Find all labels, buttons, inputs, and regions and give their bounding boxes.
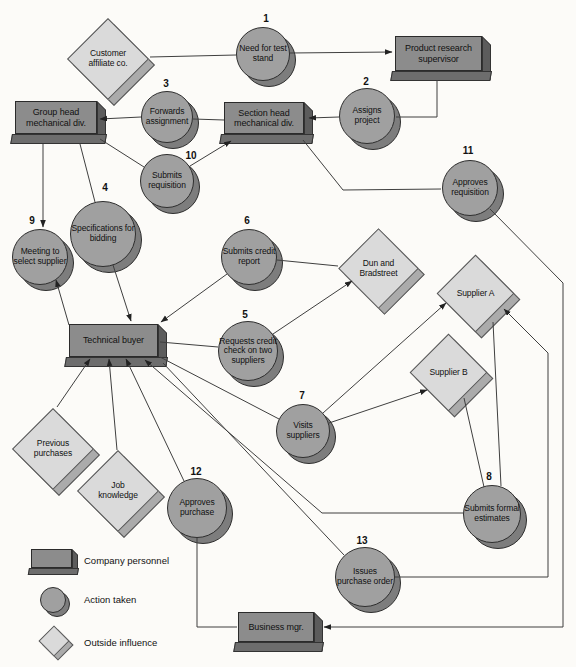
legend-outside-influence-swatch — [43, 630, 65, 652]
edge-group-head-to-4 — [80, 144, 95, 202]
action-label: Approves requisition — [443, 178, 497, 197]
action-node-11: Approves requisition — [442, 160, 498, 216]
edge-dun-and-bradstreet-to-6 — [277, 260, 338, 266]
edge-3-to-group-head — [100, 117, 141, 119]
edge-6-to-technical-buyer — [161, 274, 227, 322]
personnel-label: Group head mechanical div. — [16, 107, 96, 127]
influence-supplier-b: Supplier B — [421, 345, 476, 400]
edge-product-research-supervisor-to-2 — [396, 80, 437, 117]
personnel-label: Business mgr. — [248, 622, 303, 632]
action-label: Assigns project — [340, 106, 394, 125]
box-bottom-face — [219, 134, 314, 144]
action-node-10: Submits requisition — [140, 154, 194, 208]
legend-label-outside-influence: Outside influence — [84, 637, 204, 648]
edge-job-knowledge-to-technical-buyer — [109, 359, 117, 450]
personnel-label: Section head mechanical div. — [225, 108, 303, 128]
action-number: 9 — [23, 215, 41, 226]
box-bottom-face — [10, 134, 107, 144]
action-node-3: Forwards assignment — [141, 91, 193, 143]
action-number: 6 — [238, 215, 256, 226]
flow-diagram: Customer affiliate co. Dun and Bradstree… — [0, 0, 576, 667]
influence-label: Supplier B — [427, 368, 471, 378]
action-number: 8 — [480, 471, 498, 482]
edge-business-mgr-to-12 — [197, 538, 237, 627]
influence-label: Dun and Bradstreet — [350, 259, 408, 278]
influence-label: Job knowledge — [92, 481, 144, 500]
influence-label: Previous purchases — [28, 439, 78, 458]
action-label: Visits suppliers — [277, 421, 329, 440]
action-label: Forwards assignment — [142, 107, 192, 126]
action-number: 7 — [293, 390, 311, 401]
action-label: Submits credit report — [222, 247, 276, 266]
action-number: 2 — [357, 76, 375, 87]
personnel-label: Product research supervisor — [396, 43, 481, 63]
action-number: 3 — [157, 78, 175, 89]
action-label: Submits formal estimates — [464, 504, 520, 523]
box-bottom-face — [390, 71, 492, 81]
legend-action-taken-swatch — [40, 587, 66, 613]
action-node-7: Visits suppliers — [276, 404, 330, 458]
action-node-5: Requests credit check on two suppliers — [218, 321, 278, 381]
box-bottom-face — [28, 568, 79, 575]
action-label: Requests credit check on two suppliers — [219, 337, 277, 366]
legend-label-action-taken: Action taken — [84, 594, 204, 605]
personnel-label: Technical buyer — [83, 335, 144, 345]
legend-company-personnel-swatch — [31, 549, 72, 568]
personnel-business-mgr: Business mgr. — [238, 612, 314, 642]
action-label: Need for test stand — [237, 44, 289, 63]
personnel-technical-buyer: Technical buyer — [69, 324, 158, 357]
influence-dun-and-bradstreet: Dun and Bradstreet — [350, 240, 407, 297]
box-bottom-face — [64, 357, 168, 367]
edge-2-to-section-head — [309, 117, 339, 118]
action-node-8: Submits formal estimates — [463, 485, 521, 543]
action-node-4: Specifications for bidding — [70, 201, 136, 267]
edge-4-to-technical-buyer — [113, 265, 131, 321]
action-node-1: Need for test stand — [236, 27, 290, 81]
action-number: 10 — [182, 150, 200, 161]
influence-label: Customer affiliate co. — [85, 49, 131, 68]
action-number: 11 — [459, 145, 477, 156]
action-node-2: Assigns project — [339, 88, 395, 144]
edge-group-head-to-10 — [100, 139, 144, 167]
action-number: 13 — [353, 535, 371, 546]
edge-technical-buyer-to-5 — [160, 342, 218, 347]
action-node-9: Meeting to select supplier — [12, 229, 68, 285]
action-label: Issues purchase order — [336, 567, 394, 586]
personnel-product-research-supervisor: Product research supervisor — [395, 36, 482, 71]
personnel-group-head-mechanical-div: Group head mechanical div. — [15, 101, 97, 134]
action-node-6: Submits credit report — [221, 229, 277, 285]
personnel-section-head-mechanical-div: Section head mechanical div. — [224, 102, 304, 134]
edge-customer-affiliate-to-1 — [150, 55, 236, 57]
action-node-13: Issues purchase order — [335, 547, 395, 607]
action-label: Meeting to select supplier — [13, 247, 67, 266]
influence-customer-affiliate: Customer affiliate co. — [79, 30, 137, 88]
action-number: 12 — [187, 466, 205, 477]
action-number: 5 — [236, 309, 254, 320]
legend-label-company-personnel: Company personnel — [84, 555, 204, 566]
action-label: Approves purchase — [168, 498, 226, 517]
action-number: 1 — [257, 13, 275, 24]
action-label: Specifications for bidding — [71, 224, 135, 243]
influence-job-knowledge: Job knowledge — [89, 462, 147, 520]
action-label: Submits requisition — [141, 171, 193, 190]
box-bottom-face — [233, 642, 324, 652]
influence-label: Supplier A — [454, 289, 498, 299]
edge-1-to-product-research-supervisor — [290, 52, 392, 53]
influence-supplier-a: Supplier A — [448, 266, 503, 321]
action-number: 4 — [96, 182, 114, 193]
action-node-12: Approves purchase — [167, 478, 227, 538]
